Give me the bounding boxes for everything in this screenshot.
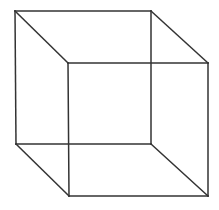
cube-edge-back-top-right-to-front-top-right bbox=[151, 11, 208, 63]
cube-edge-back-bottom-left-to-back-top-left bbox=[15, 11, 16, 144]
cube-edge-back-bottom-right-to-front-bottom-right bbox=[151, 144, 208, 196]
cube-edges bbox=[15, 11, 208, 196]
cube-edge-back-bottom-left-to-front-bottom-left bbox=[16, 144, 69, 196]
diagram-canvas bbox=[0, 0, 219, 210]
necker-cube-diagram bbox=[0, 0, 219, 210]
cube-edge-back-top-left-to-front-top-left bbox=[15, 11, 68, 63]
cube-edge-front-bottom-left-to-front-top-left bbox=[68, 63, 69, 196]
